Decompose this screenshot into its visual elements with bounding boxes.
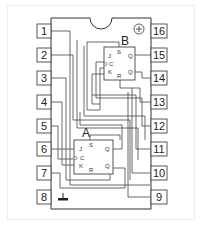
flipflop-a-q: Q (105, 146, 110, 152)
flipflop-a-j: J (79, 146, 82, 152)
flipflop-a-r: R (89, 167, 94, 173)
left-pins: 1 2 3 4 5 6 7 8 (37, 24, 51, 204)
pin-13-label: 13 (153, 96, 165, 108)
pin-7-label: 7 (41, 167, 47, 179)
pin-12-label: 12 (153, 120, 165, 132)
flipflop-b-label: B (121, 34, 129, 48)
flipflop-b-s: S (117, 49, 121, 55)
right-pins: 16 15 14 13 12 11 10 9 (151, 24, 167, 204)
pin-1-label: 1 (41, 25, 47, 37)
flipflop-a-s: S (89, 142, 93, 148)
ic-diagram: 1 2 3 4 5 6 7 8 16 15 14 13 12 11 10 9 (0, 0, 202, 227)
pin-15-label: 15 (153, 49, 165, 61)
pin-16-label: 16 (153, 25, 165, 37)
flipflop-b-k: K (108, 69, 112, 75)
flipflop-b-qbar: Q (128, 69, 133, 75)
flipflop-a-qbar: Q (105, 163, 110, 169)
pin-10-label: 10 (153, 167, 165, 179)
flipflop-a-label: A (82, 126, 90, 140)
pin-9-label: 9 (156, 191, 162, 203)
flipflop-a-k: K (79, 163, 83, 169)
flipflop-b-r: R (117, 73, 122, 79)
pin-8-label: 8 (41, 191, 47, 203)
flipflop-b-j: J (108, 53, 111, 59)
flipflop-a-c: C (80, 155, 85, 161)
flipflop-b-q: Q (128, 53, 133, 59)
pin-11-label: 11 (153, 143, 164, 155)
pin-6-label: 6 (41, 143, 47, 155)
pin-5-label: 5 (41, 120, 47, 132)
flipflop-b-c: C (109, 61, 114, 67)
pin-14-label: 14 (153, 72, 165, 84)
pin-3-label: 3 (41, 72, 47, 84)
pin-2-label: 2 (41, 49, 47, 61)
pin-4-label: 4 (41, 96, 47, 108)
